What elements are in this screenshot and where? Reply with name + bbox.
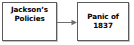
panic-1837-node[interactable]: Panic of 1837 xyxy=(77,2,129,41)
panic-1837-line-2: 1837 xyxy=(93,22,113,31)
jackson-policies-node[interactable]: Jackson’s Policies xyxy=(2,2,57,41)
jackson-policies-line-2: Policies xyxy=(3,15,56,24)
arrow-policies-to-panic xyxy=(57,18,78,27)
cause-effect-diagram: Jackson’s Policies Panic of 1837 xyxy=(0,0,134,45)
